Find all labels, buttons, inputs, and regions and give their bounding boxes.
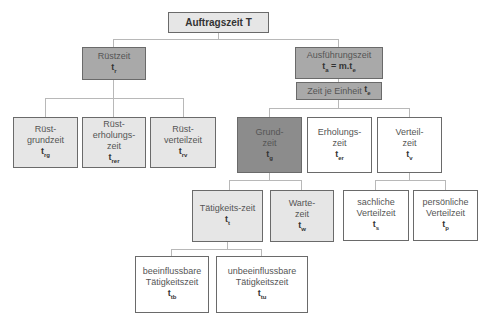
node-label: persönliche [422,197,468,208]
node-symbol: trv [179,146,188,161]
node-symbol: trg [41,146,50,161]
node-label: unbeeinflussbare [228,266,297,277]
node-label: Ausführungszeit [307,50,372,61]
connector [113,39,114,47]
node-verteilzeit: Verteil- zeit tv [377,117,442,173]
connector [229,180,230,190]
connector [229,180,302,181]
connector [171,249,172,256]
connector [261,249,262,256]
node-ruest-verteilzeit: Rüst- verteilzeit trv [150,117,216,168]
node-persoenliche-verteilzeit: persönliche Verteilzeit tp [413,190,478,241]
node-ruestzeit: Rüstzeit tr [82,47,146,80]
node-label: grundzeit [27,135,64,146]
node-label: erholungs- [93,130,136,141]
node-symbol: tg [266,149,273,164]
connector [338,39,339,47]
connector [409,108,410,117]
node-symbol: ter [335,149,344,164]
node-label: Auftragszeit T [185,17,252,28]
node-label: Rüst- [35,124,57,135]
connector [301,180,302,190]
node-label: Verteilzeit [356,208,395,219]
node-label: zeit [332,138,346,149]
node-ruest-erholungszeit: Rüst- erholungs- zeit trer [82,117,146,168]
node-label: beeinflussbare [143,266,202,277]
node-label: zeit [402,138,416,149]
node-label: Zeit je Einheit [307,86,364,97]
node-label: Grund- [255,127,283,138]
node-label: Erholungs- [318,127,362,138]
connector [375,180,376,190]
node-label: Rüst- [172,124,194,135]
connector [269,108,270,117]
node-ausfuehrungszeit: Ausführungszeit ta = m.te [295,47,383,79]
connector [171,249,262,250]
node-label: Verteilzeit [426,208,465,219]
node-formula: ta = m.te [322,61,355,76]
connector [375,180,446,181]
connector [45,98,184,99]
connector [409,172,410,180]
connector [183,98,184,117]
node-grundzeit: Grund- zeit tg [237,117,302,173]
connector [269,108,410,109]
node-unbeeinflussbare-taetigkeitszeit: unbeeinflussbare Tätigkeitszeit ttu [216,256,308,313]
node-wartezeit: Warte- zeit tw [270,190,334,242]
node-auftragszeit: Auftragszeit T [168,12,269,33]
node-label: Rüstzeit [98,51,131,62]
node-zeit-je-einheit: Zeit je Einheit te [296,82,382,100]
node-ruest-grundzeit: Rüst- grundzeit trg [13,117,78,168]
node-symbol: tp [442,219,449,234]
node-symbol: tt [225,214,230,229]
connector [218,32,219,39]
node-label: Tätigkeitszeit [146,277,199,288]
node-label: Tätigkeits-zeit [200,203,256,214]
connector [45,98,46,117]
connector [227,241,228,249]
node-symbol: tv [406,149,412,164]
node-symbol: tw [298,220,306,235]
node-label: Rüst- [103,119,125,130]
node-symbol: te [364,84,370,99]
node-label: zeit [262,138,276,149]
node-symbol: ttb [168,288,177,303]
connector [269,172,270,180]
node-sachliche-verteilzeit: sachliche Verteilzeit ts [343,190,409,241]
connector [445,180,446,190]
connector [113,39,339,40]
node-label: sachliche [357,197,395,208]
node-beeinflussbare-taetigkeitszeit: beeinflussbare Tätigkeitszeit ttb [135,256,209,313]
node-symbol: ts [373,219,379,234]
node-label: zeit [107,141,121,152]
node-taetigkeitszeit: Tätigkeits-zeit tt [192,190,263,242]
node-label: Tätigkeitszeit [236,277,289,288]
node-symbol: trer [108,152,119,167]
node-label: Warte- [289,198,316,209]
node-symbol: tr [111,62,116,77]
node-label: zeit [295,209,309,220]
node-label: Verteil- [395,127,423,138]
node-erholungszeit: Erholungs- zeit ter [307,117,372,173]
node-symbol: ttu [258,288,267,303]
node-label: verteilzeit [164,135,202,146]
